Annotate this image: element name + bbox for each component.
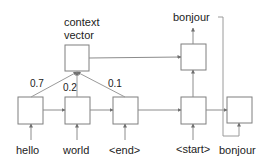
encoder-input-end: <end>	[109, 144, 140, 156]
decoder-input-start: <start>	[176, 143, 210, 155]
context-to-decoder-arrow	[89, 57, 181, 58]
decoder-output-box	[181, 44, 206, 70]
encoder-input-hello: hello	[16, 144, 39, 156]
encoder-input-world: world	[63, 144, 89, 156]
decoder-input-bonjour: bonjour	[219, 144, 256, 156]
context-vector-box	[65, 45, 89, 71]
context-label-line1: context	[64, 16, 99, 28]
context-label-line2: vector	[64, 29, 94, 41]
attention-weight-world: 0.2	[63, 82, 77, 94]
encoder-box-world	[65, 97, 90, 124]
attention-weight-hello: 0.7	[30, 78, 44, 90]
decoder-output-label: bonjour	[173, 11, 210, 23]
encoder-box-end	[113, 97, 138, 124]
decoder-box-start	[181, 97, 206, 124]
attention-weight-end: 0.1	[108, 78, 122, 90]
decoder-box-bonjour	[227, 97, 252, 123]
encoder-box-hello	[18, 97, 43, 124]
